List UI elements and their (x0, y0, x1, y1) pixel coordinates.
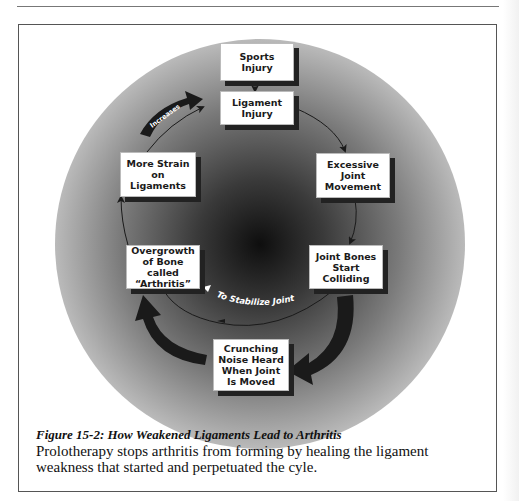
page-edge-shading (503, 0, 519, 501)
arrow-overgrowth-to-strain (121, 197, 128, 245)
arrow-ligament-to-excessive (295, 108, 345, 151)
figure-frame: Increases To Stabilize Joint Sports Inju… (18, 24, 497, 492)
stabilize-joint-label: To Stabilize Joint (215, 289, 296, 307)
caption-body: Prolotherapy stops arthritis from formin… (36, 443, 486, 475)
page-top-rule (17, 6, 499, 7)
node-joint-bones-colliding: Joint Bones Start Colliding (309, 245, 383, 289)
figure-caption: Figure 15-2: How Weakened Ligaments Lead… (36, 427, 486, 475)
arrow-excessive-to-joint-bones (350, 199, 356, 243)
node-bone-overgrowth: Overgrowth of Bone called “Arthritis” (126, 245, 200, 289)
thick-arrow-crunching-to-overgrowth (135, 295, 207, 365)
node-sports-injury: Sports Injury (220, 43, 294, 81)
arrow-stabilize-joint (164, 289, 335, 325)
node-more-strain: More Strain on Ligaments (120, 152, 196, 197)
increases-label: Increases (148, 102, 181, 129)
node-excessive-joint-movement: Excessive Joint Movement (316, 153, 390, 198)
thick-arrow-joint-bones-to-crunching (287, 295, 354, 385)
caption-title: Figure 15-2: How Weakened Ligaments Lead… (36, 427, 486, 443)
node-ligament-injury: Ligament Injury (220, 91, 294, 125)
node-crunching-noise: Crunching Noise Heard When Joint Is Move… (213, 339, 289, 391)
stabilize-arrowhead (203, 285, 211, 292)
